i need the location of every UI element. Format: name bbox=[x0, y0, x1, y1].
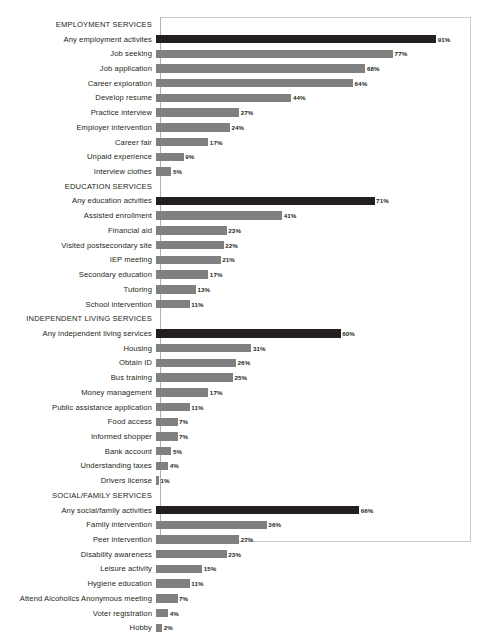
bar-category-label: Family intervention bbox=[0, 520, 156, 529]
bar bbox=[156, 64, 365, 73]
bar-zone: 44% bbox=[156, 91, 485, 106]
bar bbox=[156, 167, 171, 176]
bar-category-label: Any social/family activities bbox=[0, 506, 156, 515]
bar bbox=[156, 418, 178, 427]
bar-value-label: 27% bbox=[241, 536, 254, 543]
bar bbox=[156, 79, 353, 88]
chart-bar-row: Drivers license1% bbox=[0, 473, 485, 488]
chart-bar-row: Employer intervention24% bbox=[0, 120, 485, 135]
chart-bar-row: Informed shopper7% bbox=[0, 429, 485, 444]
bar-zone: 7% bbox=[156, 414, 485, 429]
bar-zone: 64% bbox=[156, 76, 485, 91]
bar-value-label: 4% bbox=[170, 462, 179, 469]
bar bbox=[156, 462, 168, 471]
chart-bar-row: Financial aid23% bbox=[0, 223, 485, 238]
bar-value-label: 71% bbox=[376, 197, 389, 204]
bar-category-label: Understanding taxes bbox=[0, 461, 156, 470]
bar-category-label: Bank account bbox=[0, 447, 156, 456]
bar bbox=[156, 300, 190, 309]
bar-zone: 27% bbox=[156, 532, 485, 547]
bar-value-label: 23% bbox=[228, 227, 241, 234]
bar-category-label: Job seeking bbox=[0, 49, 156, 58]
bar-value-label: 23% bbox=[228, 551, 241, 558]
chart-bar-row: Disability awareness23% bbox=[0, 547, 485, 562]
bar-value-label: 7% bbox=[179, 433, 188, 440]
bar bbox=[156, 373, 233, 382]
chart-bar-row: Unpaid experience9% bbox=[0, 149, 485, 164]
bar-category-label: Career fair bbox=[0, 138, 156, 147]
bar-value-label: 11% bbox=[191, 404, 203, 411]
bar-zone: 41% bbox=[156, 208, 485, 223]
chart-bar-row: Visited postsecondary site22% bbox=[0, 238, 485, 253]
bar-zone: 36% bbox=[156, 517, 485, 532]
bar-value-label: 15% bbox=[204, 565, 217, 572]
chart-bar-row: Interview clothes5% bbox=[0, 164, 485, 179]
bar-category-label: Financial aid bbox=[0, 226, 156, 235]
chart-bar-row: Any social/family activities66% bbox=[0, 503, 485, 518]
bar-value-label: 17% bbox=[210, 389, 223, 396]
chart-bar-row: Voter registration4% bbox=[0, 606, 485, 621]
bar bbox=[156, 535, 239, 544]
bar-value-label: 17% bbox=[210, 271, 223, 278]
bar-category-label: Bus training bbox=[0, 373, 156, 382]
bar-zone: 17% bbox=[156, 385, 485, 400]
bar-category-label: Obtain ID bbox=[0, 358, 156, 367]
bar-category-label: Career exploration bbox=[0, 79, 156, 88]
bar-category-label: Peer intervention bbox=[0, 535, 156, 544]
bar-zone: 71% bbox=[156, 194, 485, 209]
bar-category-label: Assisted enrollment bbox=[0, 211, 156, 220]
bar-category-label: Money management bbox=[0, 388, 156, 397]
bar bbox=[156, 432, 178, 441]
bar-category-label: Visited postsecondary site bbox=[0, 241, 156, 250]
bar bbox=[156, 594, 178, 603]
bar-category-label: Leisure activity bbox=[0, 564, 156, 573]
bar-highlight bbox=[156, 329, 341, 338]
bar-value-label: 36% bbox=[268, 521, 281, 528]
bar-value-label: 24% bbox=[231, 124, 244, 131]
bar-zone: 7% bbox=[156, 429, 485, 444]
bar-category-label: Unpaid experience bbox=[0, 152, 156, 161]
chart-bar-row: Public assistance application11% bbox=[0, 400, 485, 415]
bar-category-label: Hobby bbox=[0, 623, 156, 632]
bar-value-label: 11% bbox=[191, 301, 203, 308]
bar-zone: 5% bbox=[156, 164, 485, 179]
bar bbox=[156, 521, 267, 530]
bar-category-label: IEP meeting bbox=[0, 255, 156, 264]
bar-zone: 11% bbox=[156, 400, 485, 415]
section-header-label: EMPLOYMENT SERVICES bbox=[0, 20, 156, 29]
bar-value-label: 60% bbox=[342, 330, 355, 337]
bar-value-label: 4% bbox=[170, 610, 179, 617]
bar-zone: 27% bbox=[156, 105, 485, 120]
chart-section-header-row: EMPLOYMENT SERVICES bbox=[0, 17, 485, 32]
bar-value-label: 7% bbox=[179, 418, 188, 425]
chart-bar-row: Family intervention36% bbox=[0, 517, 485, 532]
bar-value-label: 5% bbox=[173, 448, 182, 455]
bar-zone: 4% bbox=[156, 459, 485, 474]
chart-bar-row: Develop resume44% bbox=[0, 91, 485, 106]
bar-zone: 7% bbox=[156, 591, 485, 606]
bar-zone: 31% bbox=[156, 341, 485, 356]
bar-value-label: 77% bbox=[395, 50, 408, 57]
chart-section-header-row: SOCIAL/FAMILY SERVICES bbox=[0, 488, 485, 503]
bar-value-label: 68% bbox=[367, 65, 380, 72]
bar bbox=[156, 388, 208, 397]
bar-value-label: 31% bbox=[253, 345, 266, 352]
bar-value-label: 26% bbox=[238, 359, 251, 366]
bar-zone: 17% bbox=[156, 267, 485, 282]
bar bbox=[156, 50, 393, 59]
bar-zone: 9% bbox=[156, 149, 485, 164]
bar-value-label: 2% bbox=[164, 624, 173, 631]
bar bbox=[156, 447, 171, 456]
bar-zone: 11% bbox=[156, 576, 485, 591]
bar-zone: 26% bbox=[156, 356, 485, 371]
chart-bar-row: Money management17% bbox=[0, 385, 485, 400]
bar bbox=[156, 270, 208, 279]
chart-bar-row: Obtain ID26% bbox=[0, 356, 485, 371]
bar bbox=[156, 624, 162, 633]
bar-value-label: 5% bbox=[173, 168, 182, 175]
bar-highlight bbox=[156, 197, 375, 206]
bar-zone: 11% bbox=[156, 297, 485, 312]
bar-category-label: Practice interview bbox=[0, 108, 156, 117]
bar bbox=[156, 476, 159, 485]
